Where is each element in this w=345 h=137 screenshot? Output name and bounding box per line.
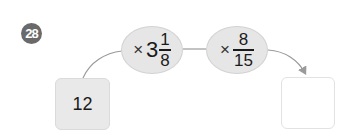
multiply-icon: × xyxy=(220,40,230,60)
fraction-numerator: 1 xyxy=(159,31,170,48)
start-value-box: 12 xyxy=(55,78,110,130)
fraction-denominator: 8 xyxy=(159,52,170,69)
fraction: 8 15 xyxy=(233,31,254,69)
connector-start-to-step1 xyxy=(83,51,122,78)
operation-step-2: × 8 15 xyxy=(206,26,268,74)
arrow-step2-to-answer xyxy=(268,50,305,73)
multiply-icon: × xyxy=(133,40,143,60)
operation-step-1: × 3 1 8 xyxy=(121,26,183,74)
fraction-numerator: 8 xyxy=(238,31,249,48)
answer-box[interactable] xyxy=(281,77,335,129)
fraction-denominator: 15 xyxy=(233,52,254,69)
fraction: 1 8 xyxy=(159,31,170,69)
flow-diagram: 28 × 3 1 8 × 8 15 12 xyxy=(0,0,345,137)
mixed-number-whole: 3 xyxy=(146,37,158,63)
problem-number-badge: 28 xyxy=(21,23,42,44)
